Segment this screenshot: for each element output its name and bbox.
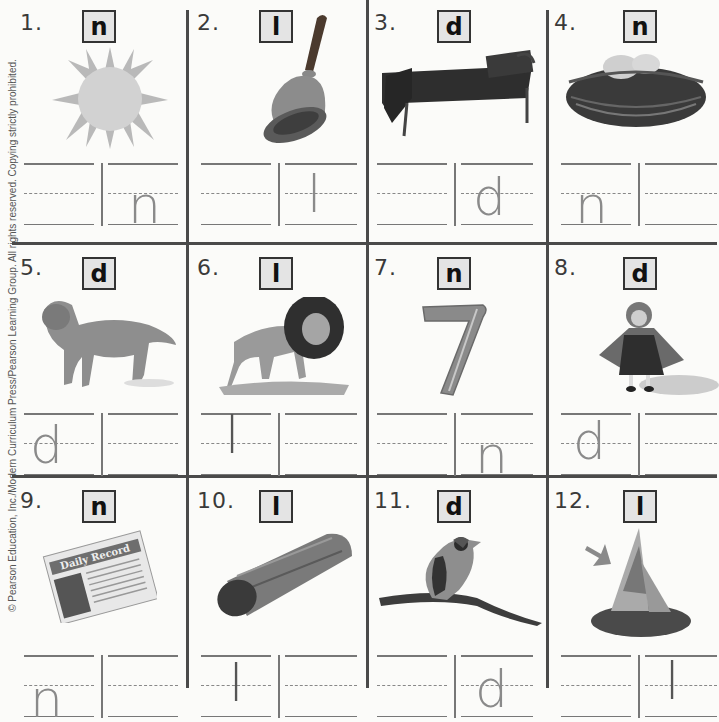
sun-icon <box>50 45 170 150</box>
sailboat-icon <box>579 526 699 641</box>
writing-lines: n <box>561 163 716 227</box>
bed-icon <box>372 48 537 138</box>
lion-icon <box>214 297 354 397</box>
writing-lines: n <box>377 413 537 477</box>
target-letter-box: d <box>437 490 471 523</box>
handwritten-letter: l <box>307 168 321 220</box>
target-letter-box: l <box>259 490 293 523</box>
writing-lines: l <box>561 655 716 719</box>
writing-lines: n <box>24 163 174 227</box>
item-6: 6. l l <box>189 245 366 475</box>
handwritten-letter: n <box>30 673 63 722</box>
bird-icon <box>377 528 542 638</box>
target-letter-box: n <box>623 10 657 43</box>
seven-icon <box>421 303 491 398</box>
item-number: 2. <box>197 10 220 35</box>
writing-lines: l <box>201 413 356 477</box>
target-letter-box: l <box>259 257 293 290</box>
handwritten-letter: l <box>665 655 679 707</box>
item-9: 9. n Daily Record n <box>12 478 186 688</box>
item-number: 9. <box>20 488 43 513</box>
item-number: 5. <box>20 255 43 280</box>
writing-lines: l <box>201 655 356 719</box>
handwritten-letter: d <box>573 415 606 467</box>
doll-icon <box>579 300 719 400</box>
target-letter-box: l <box>623 490 657 523</box>
item-3: 3. d d <box>369 0 546 242</box>
handwritten-letter: l <box>225 409 239 461</box>
handwritten-letter: n <box>475 429 508 481</box>
target-letter-box: d <box>82 257 116 290</box>
handwritten-letter: d <box>475 663 508 715</box>
writing-lines: l <box>201 163 356 227</box>
writing-lines: d <box>377 655 537 719</box>
dog-icon <box>34 295 179 395</box>
writing-lines: d <box>24 413 174 477</box>
handwritten-letter: n <box>575 179 608 231</box>
item-number: 6. <box>197 255 220 280</box>
item-number: 1. <box>20 10 43 35</box>
handwritten-letter: d <box>30 419 63 471</box>
item-1: 1. n n <box>12 0 186 242</box>
item-7: 7. n n <box>369 245 546 475</box>
item-11: 11. d d <box>369 478 546 688</box>
item-2: 2. l l <box>189 0 366 242</box>
item-number: 8. <box>554 255 577 280</box>
item-10: 10. l l <box>189 478 366 688</box>
writing-lines: d <box>377 163 537 227</box>
item-5: 5. d d <box>12 245 186 475</box>
handwritten-letter: l <box>229 657 243 709</box>
newspaper-icon: Daily Record <box>42 528 157 623</box>
item-number: 10. <box>197 488 235 513</box>
target-letter-box: d <box>623 257 657 290</box>
item-4: 4. n n <box>549 0 717 242</box>
log-icon <box>207 526 357 621</box>
handwritten-letter: n <box>128 179 161 231</box>
item-number: 4. <box>554 10 577 35</box>
item-12: 12. l l <box>549 478 717 688</box>
target-letter-box: n <box>82 10 116 43</box>
item-number: 7. <box>374 255 397 280</box>
bell-icon <box>239 10 349 145</box>
target-letter-box: n <box>437 257 471 290</box>
item-number: 3. <box>374 10 397 35</box>
item-8: 8. d d <box>549 245 717 475</box>
item-number: 11. <box>374 488 412 513</box>
worksheet-grid: 1. n n 2. l <box>12 0 717 688</box>
target-letter-box: d <box>437 10 471 43</box>
writing-lines: d <box>561 413 716 477</box>
handwritten-letter: d <box>473 171 506 223</box>
writing-lines: n <box>24 655 174 719</box>
item-number: 12. <box>554 488 592 513</box>
target-letter-box: n <box>82 490 116 523</box>
nest-icon <box>561 42 711 132</box>
